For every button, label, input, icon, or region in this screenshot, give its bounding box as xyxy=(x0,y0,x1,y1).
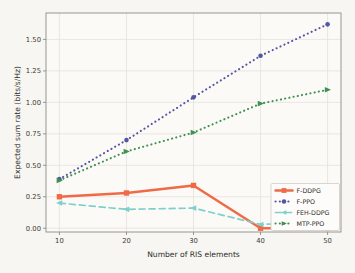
legend-label: F-PPO xyxy=(297,198,315,205)
tick-label-y: 1.25 xyxy=(26,67,41,75)
data-point-circle xyxy=(191,95,196,100)
x-axis-label: Number of RIS elements xyxy=(147,250,240,259)
data-point-square xyxy=(282,188,287,193)
data-point-square xyxy=(57,194,62,199)
tick-label-x: 20 xyxy=(122,237,131,245)
legend-label: MTP-PPO xyxy=(297,220,325,227)
data-point-circle xyxy=(282,199,287,204)
tick-label-y: 0.25 xyxy=(26,193,41,201)
data-point-circle xyxy=(258,53,263,58)
y-axis-label: Expected sum rate (bits/s/Hz) xyxy=(13,66,22,179)
line-chart-figure: 0.000.250.500.751.001.251.501020304050 E… xyxy=(0,0,355,273)
tick-label-y: 0.00 xyxy=(26,225,41,233)
tick-label-y: 0.50 xyxy=(26,162,41,170)
tick-label-y: 1.50 xyxy=(26,36,41,44)
tick-label-x: 50 xyxy=(323,237,332,245)
tick-label-y: 1.00 xyxy=(26,99,41,107)
tick-label-x: 30 xyxy=(189,237,198,245)
chart-canvas: 0.000.250.500.751.001.251.501020304050 E… xyxy=(0,0,355,273)
tick-label-y: 0.75 xyxy=(26,130,41,138)
tick-label-x: 10 xyxy=(55,237,64,245)
data-point-square xyxy=(191,183,196,188)
legend: F-DDPGF-PPOFEH-DDPGMTP-PPO xyxy=(271,184,340,231)
data-point-circle xyxy=(325,22,330,27)
data-point-circle xyxy=(124,138,129,143)
data-point-square xyxy=(124,190,129,195)
legend-label: FEH-DDPG xyxy=(297,209,330,216)
tick-label-x: 40 xyxy=(256,237,265,245)
legend-label: F-DDPG xyxy=(297,187,321,194)
